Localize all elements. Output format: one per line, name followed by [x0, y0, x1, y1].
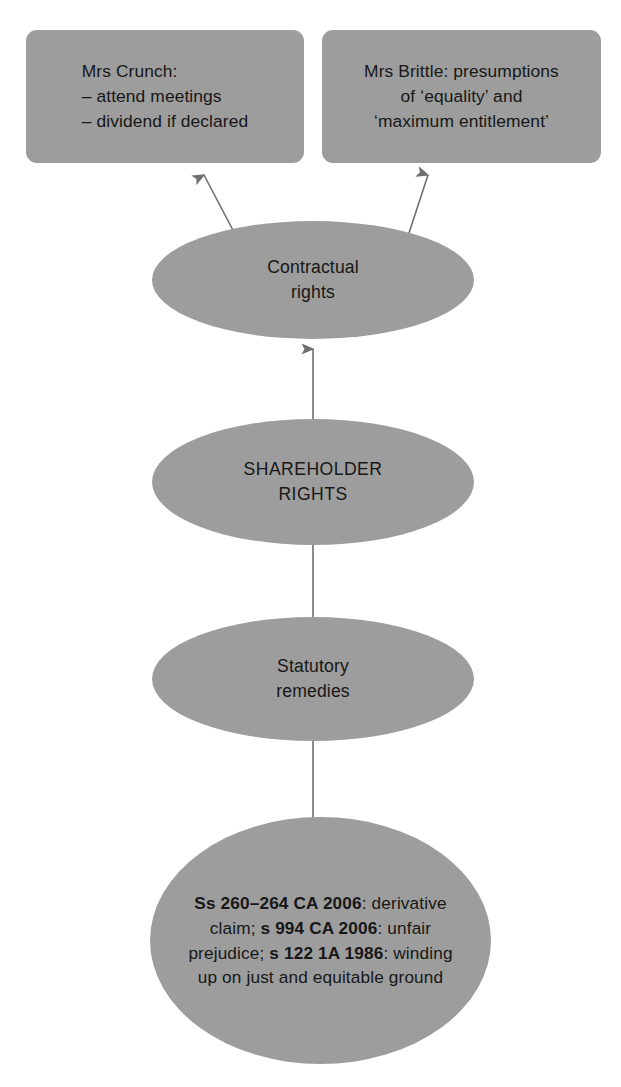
node-contractual-rights-label: Contractual rights: [267, 255, 359, 305]
statute-citation: s 122 1A 1986: [269, 943, 383, 963]
node-contractual-rights[interactable]: Contractual rights: [152, 221, 474, 339]
node-statutory-remedies[interactable]: Statutory remedies: [152, 617, 474, 741]
node-statutory-detail[interactable]: Ss 260–264 CA 2006: derivative claim; s …: [150, 817, 491, 1064]
statute-citation: s 994 CA 2006: [261, 918, 378, 938]
node-statutory-detail-label: Ss 260–264 CA 2006: derivative claim; s …: [150, 891, 491, 991]
arrow-contractual-to-crunch: [204, 175, 235, 234]
node-shareholder-rights-label: SHAREHOLDER RIGHTS: [244, 457, 383, 507]
node-mrs-brittle-text: Mrs Brittle: presumptions of ‘equality’ …: [364, 59, 559, 133]
node-mrs-crunch-text: Mrs Crunch: – attend meetings – dividend…: [82, 59, 249, 133]
node-shareholder-rights[interactable]: SHAREHOLDER RIGHTS: [152, 419, 474, 545]
arrow-contractual-to-brittle: [409, 175, 428, 233]
statute-citation: Ss 260–264 CA 2006: [194, 893, 361, 913]
node-statutory-remedies-label: Statutory remedies: [276, 654, 350, 704]
node-mrs-brittle-box[interactable]: Mrs Brittle: presumptions of ‘equality’ …: [322, 30, 601, 163]
node-mrs-crunch-box[interactable]: Mrs Crunch: – attend meetings – dividend…: [26, 30, 304, 163]
diagram-canvas: Mrs Crunch: – attend meetings – dividend…: [0, 0, 621, 1087]
